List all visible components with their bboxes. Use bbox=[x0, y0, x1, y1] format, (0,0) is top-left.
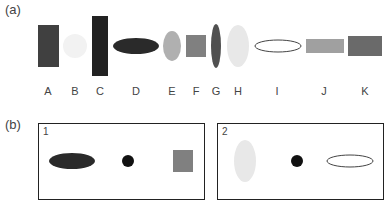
label-a: A bbox=[44, 85, 51, 97]
shape-a bbox=[38, 25, 59, 67]
box-2-label: 2 bbox=[222, 126, 228, 137]
label-k: K bbox=[361, 85, 368, 97]
shape-f bbox=[186, 35, 206, 57]
box-2: 2 bbox=[217, 123, 384, 200]
label-d: D bbox=[132, 85, 140, 97]
shape-c bbox=[92, 16, 108, 76]
shape-b bbox=[63, 34, 87, 58]
label-c: C bbox=[96, 85, 104, 97]
label-i: I bbox=[275, 85, 278, 97]
label-e: E bbox=[168, 85, 175, 97]
shape-e bbox=[163, 31, 181, 61]
shape-g bbox=[211, 24, 221, 68]
label-g: G bbox=[212, 85, 221, 97]
box-1: 1 bbox=[38, 123, 205, 200]
label-f: F bbox=[193, 85, 200, 97]
shape-d bbox=[113, 38, 159, 54]
shape-i bbox=[255, 40, 301, 52]
label-h: H bbox=[234, 85, 242, 97]
label-b: B bbox=[71, 85, 78, 97]
shape-j bbox=[306, 39, 344, 53]
box-1-label: 1 bbox=[43, 126, 49, 137]
label-j: J bbox=[321, 85, 327, 97]
shape-k bbox=[348, 36, 382, 56]
shape-h bbox=[227, 25, 249, 67]
panel-b-label: (b) bbox=[5, 117, 21, 132]
